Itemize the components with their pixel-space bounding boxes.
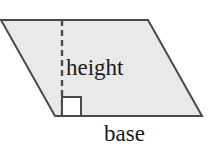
height-label: height xyxy=(66,56,124,79)
right-angle-square-icon xyxy=(62,97,81,116)
base-label: base xyxy=(104,122,145,145)
parallelogram-figure: height base xyxy=(0,0,214,150)
